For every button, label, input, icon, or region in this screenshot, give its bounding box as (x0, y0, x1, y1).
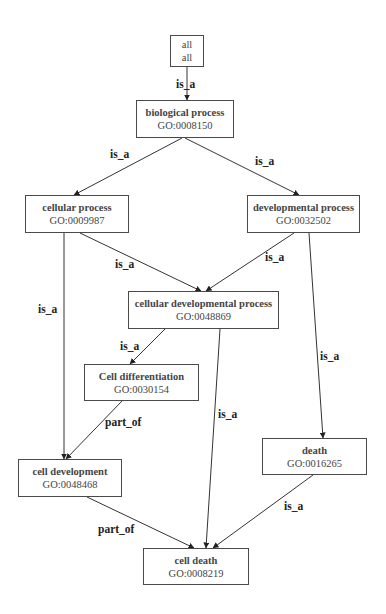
edge-label: is_a (320, 350, 339, 362)
node-name: cell development (33, 465, 108, 478)
node-go-id: GO:0030154 (114, 383, 169, 396)
go-term-graph: is_ais_ais_ais_ais_ais_ais_ais_apart_ofi… (0, 0, 386, 614)
node-go-id: GO:0048869 (176, 310, 231, 323)
node-developmental-process[interactable]: developmental processGO:0032502 (247, 195, 360, 233)
node-cell-development[interactable]: cell developmentGO:0048468 (18, 459, 122, 497)
edge-label: is_a (218, 408, 237, 420)
node-biological-process[interactable]: biological processGO:0008150 (136, 100, 234, 138)
node-go-id: GO:0008219 (169, 567, 224, 580)
node-name: cell death (175, 554, 218, 567)
edge-label: is_a (255, 155, 274, 167)
edge-cellular_developmental_process-to-cell_death (206, 329, 220, 548)
edge-label: is_a (284, 500, 303, 512)
node-go-id: GO:0032502 (276, 214, 331, 227)
node-name: biological process (146, 106, 225, 119)
node-go-id: GO:0016265 (287, 457, 342, 470)
edge-label: is_a (110, 148, 129, 160)
edge-label: is_a (176, 78, 195, 90)
edge-label: is_a (265, 251, 284, 263)
node-all[interactable]: allall (170, 35, 204, 67)
node-name: death (302, 444, 327, 457)
edge-developmental_process-to-death (309, 233, 323, 438)
edge-label: part_of (98, 523, 134, 535)
node-cell-differentiation[interactable]: Cell differentiationGO:0030154 (84, 364, 199, 401)
node-name: cellular developmental process (135, 297, 272, 310)
edge-label: is_a (120, 340, 139, 352)
edge-biological_process-to-developmental_process (185, 138, 299, 195)
edge-label: is_a (38, 303, 57, 315)
node-go-id: all (182, 51, 193, 64)
node-name: Cell differentiation (99, 370, 184, 383)
node-cellular-developmental-process[interactable]: cellular developmental processGO:0048869 (128, 291, 279, 329)
node-death[interactable]: deathGO:0016265 (262, 438, 367, 475)
edge-label: part_of (105, 416, 141, 428)
node-go-id: GO:0008150 (158, 119, 213, 132)
node-name: developmental process (253, 201, 354, 214)
node-cellular-process[interactable]: cellular processGO:0009987 (25, 195, 129, 233)
node-go-id: GO:0048468 (43, 478, 98, 491)
edge-label: is_a (115, 258, 134, 270)
node-name: cellular process (42, 201, 111, 214)
node-cell-death[interactable]: cell deathGO:0008219 (143, 548, 249, 585)
edge-cellular_process-to-cellular_developmental_process (80, 233, 201, 291)
edge-biological_process-to-cellular_process (74, 138, 182, 195)
node-go-id: GO:0009987 (50, 214, 105, 227)
node-name: all (182, 38, 193, 51)
edge-cell_differentiation-to-cell_development (66, 401, 122, 459)
